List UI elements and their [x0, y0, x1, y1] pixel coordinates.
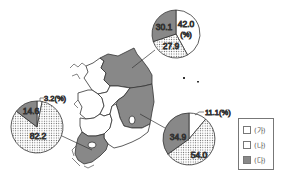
legend-label-da: (다) [254, 155, 265, 165]
pie-northeast-label-na: 27.9 [163, 41, 180, 51]
legend-item-da: (다) [243, 155, 265, 165]
region-daegu [129, 116, 135, 124]
region-gangwon [100, 48, 152, 88]
pie-southeast-label-da: 34.9 [170, 132, 187, 142]
legend-label-ga: (가) [254, 125, 265, 135]
legend-item-na: (나) [243, 140, 265, 150]
white-swatch-icon [243, 126, 251, 134]
dokdo-marker [197, 81, 199, 83]
dotted-swatch-icon [243, 141, 251, 149]
pie-southwest-label-da: 14.6 [23, 106, 40, 116]
pie-northeast-label-ga: 42.0 [178, 19, 195, 29]
pie-southeast: 34.9 54.0 11.1(%) [163, 108, 231, 165]
pie-southwest-label-na: 82.2 [30, 131, 47, 141]
pie-northeast-label-unit: (%) [180, 30, 192, 39]
legend: (가) (나) (다) [238, 118, 274, 170]
ulleungdo-marker [183, 77, 185, 79]
pie-southeast-label-na: 54.0 [191, 150, 208, 160]
pie-southeast-label-ga: 11.1(%) [205, 108, 231, 117]
korea-map [70, 48, 154, 168]
gray-swatch-icon [243, 156, 251, 164]
pie-northeast: 42.0 (%) 27.9 30.1 [152, 10, 200, 58]
pie-southwest: 14.6 82.2 3.2(%) [11, 94, 67, 153]
pie-southwest-label-ga: 3.2(%) [44, 94, 67, 103]
legend-item-ga: (가) [243, 125, 265, 135]
region-gwangju [88, 142, 96, 148]
pie-northeast-label-da: 30.1 [156, 22, 173, 32]
legend-label-na: (나) [254, 140, 265, 150]
